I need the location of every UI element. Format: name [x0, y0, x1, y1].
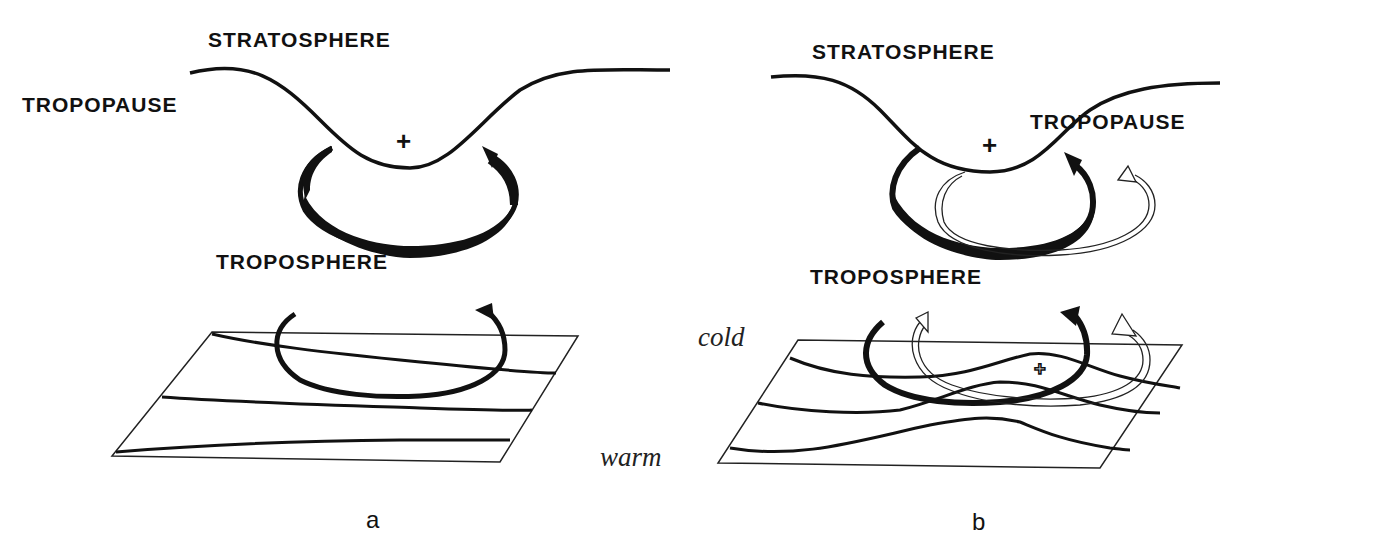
figure: STRATOSPHERE TROPOPAUSE TROPOSPHERE + a … — [0, 0, 1380, 551]
panel-caption-a: a — [366, 506, 379, 534]
surface-plane-a — [112, 332, 578, 462]
label-stratosphere-b: STRATOSPHERE — [812, 40, 995, 64]
label-troposphere-a: TROPOSPHERE — [216, 250, 388, 274]
cyclonic-circulation-arrow-b — [892, 148, 1094, 260]
surface-anomaly-plus-b: + — [1034, 358, 1047, 381]
surface-anticyclonic-arrow-b — [912, 312, 1150, 406]
diagram-graphics — [0, 0, 1380, 551]
label-warm: warm — [600, 442, 662, 473]
anomaly-plus-a: + — [396, 126, 412, 157]
label-troposphere-b: TROPOSPHERE — [810, 265, 982, 289]
label-tropopause-b: TROPOPAUSE — [1030, 110, 1185, 134]
anomaly-plus-b: + — [982, 130, 998, 161]
panel-caption-b: b — [972, 508, 985, 536]
tropopause-curve-a — [190, 68, 670, 168]
panel-a-graphics — [112, 68, 670, 462]
label-stratosphere-a: STRATOSPHERE — [208, 28, 391, 52]
label-cold: cold — [698, 322, 745, 353]
cyclonic-circulation-arrow-a — [300, 146, 516, 258]
label-tropopause-a: TROPOPAUSE — [22, 93, 177, 117]
anticyclonic-outline-arrow-b — [935, 166, 1155, 256]
